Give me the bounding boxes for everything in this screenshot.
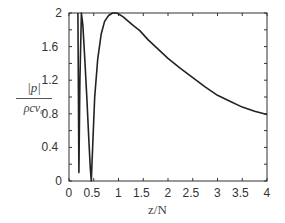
- x-tick-label: 2.5: [183, 187, 200, 199]
- y-tick-label: 2: [55, 7, 62, 19]
- y-axis-label-numerator: |p|: [14, 80, 54, 98]
- x-axis-label: z/N: [148, 202, 167, 218]
- x-tick-label: 1: [115, 187, 122, 199]
- y-axis-label: |p| ρcv₀: [14, 80, 54, 116]
- x-tick-label: 0: [66, 187, 73, 199]
- axes-frame: [69, 13, 267, 181]
- chart: 00.40.81.21.62 00.511.522.533.54 |p| ρcv…: [0, 0, 285, 223]
- y-tick-label: 0: [55, 175, 62, 187]
- y-tick-label: 0.4: [42, 141, 59, 153]
- y-tick-label: 1.6: [42, 41, 59, 53]
- x-tick-label: 1.5: [133, 187, 150, 199]
- y-axis-label-denominator: ρcv₀: [14, 99, 54, 116]
- x-tick-label: 3.5: [232, 187, 249, 199]
- x-tick-label: 3: [214, 187, 221, 199]
- x-tick-label: 2: [165, 187, 172, 199]
- data-line: [78, 13, 267, 181]
- x-tick-label: 0.5: [84, 187, 101, 199]
- x-tick-label: 4: [264, 187, 271, 199]
